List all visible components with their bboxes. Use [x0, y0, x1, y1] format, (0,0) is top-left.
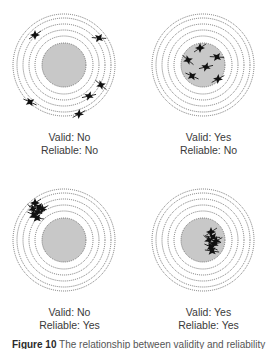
figure-caption: Figure 10 The relationship between valid… [12, 338, 278, 349]
panel-valid-no-reliable-yes: Valid: No Reliable: Yes [0, 175, 139, 345]
panel-valid-no-reliable-no: Valid: No Reliable: No [0, 0, 139, 170]
panel-valid-yes-reliable-no: Valid: Yes Reliable: No [139, 0, 278, 170]
valid-label: Valid: No [0, 306, 139, 319]
bullseye [42, 43, 86, 87]
valid-label: Valid: Yes [139, 306, 278, 319]
target-icon [139, 175, 278, 305]
valid-label: Valid: Yes [139, 131, 278, 144]
target-icon [0, 175, 139, 305]
valid-label: Valid: No [0, 131, 139, 144]
hit-mark-icon [73, 109, 86, 120]
validity-reliability-figure: Valid: No Reliable: No Valid: Yes Reliab… [0, 0, 278, 349]
panel-valid-yes-reliable-yes: Valid: Yes Reliable: Yes [139, 175, 278, 345]
reliable-label: Reliable: Yes [139, 319, 278, 332]
bullseye [42, 218, 86, 262]
caption-text: The relationship between validity and re… [56, 339, 265, 349]
reliable-label: Reliable: No [0, 144, 139, 157]
hit-mark-icon [82, 90, 96, 103]
caption-label: Figure 10 [12, 339, 56, 349]
reliable-label: Reliable: No [139, 144, 278, 157]
target-icon [139, 0, 278, 130]
reliable-label: Reliable: Yes [0, 319, 139, 332]
target-icon [0, 0, 139, 130]
